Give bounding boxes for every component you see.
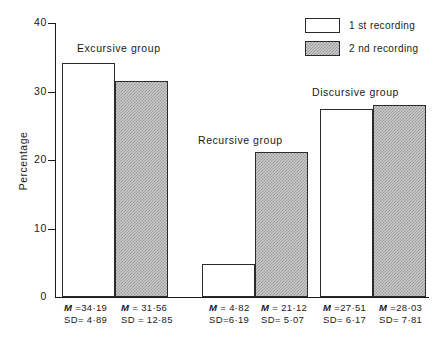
y-axis-title: Percentage bbox=[17, 116, 29, 206]
stat-recursive-2nd: M = 21·12 SD= 5·07 bbox=[261, 302, 307, 326]
legend-swatch-2nd-recording bbox=[305, 41, 340, 56]
stat-m-value: =28·03 bbox=[387, 302, 422, 313]
bar-recursive-1st bbox=[202, 264, 255, 297]
legend-label-2nd-recording: 2 nd recording bbox=[349, 43, 419, 54]
stat-sd-value: SD= 5·07 bbox=[261, 314, 307, 326]
stat-m-value: = 21·12 bbox=[269, 302, 307, 313]
group-title-discursive: Discursive group bbox=[312, 86, 399, 98]
stat-sd-value: SD=6·19 bbox=[209, 314, 250, 326]
legend-item-2nd-recording: 2 nd recording bbox=[305, 39, 419, 57]
stat-discursive-1st: M =27·51 SD= 6·17 bbox=[323, 302, 366, 326]
y-tick-30: 30 bbox=[0, 92, 55, 93]
bar-excursive-2nd bbox=[115, 81, 168, 297]
y-tick-label-0: 0 bbox=[17, 290, 47, 302]
legend-swatch-1st-recording bbox=[305, 18, 340, 33]
legend-item-1st-recording: 1 st recording bbox=[305, 16, 419, 34]
stat-excursive-2nd: M = 31·56 SD = 12·85 bbox=[121, 302, 173, 326]
y-tick-label-30: 30 bbox=[17, 85, 47, 97]
plot-area bbox=[55, 23, 429, 297]
bar-discursive-2nd bbox=[373, 105, 426, 297]
legend-label-1st-recording: 1 st recording bbox=[349, 20, 415, 31]
stat-m-value: =27·51 bbox=[331, 302, 366, 313]
stat-discursive-2nd: M =28·03 SD= 7·81 bbox=[379, 302, 422, 326]
group-title-recursive: Recursive group bbox=[198, 134, 283, 146]
y-tick-40: 40 bbox=[0, 23, 55, 24]
stat-recursive-1st: M = 4·82 SD=6·19 bbox=[209, 302, 250, 326]
group-title-excursive: Excursive group bbox=[77, 42, 161, 54]
stat-m-value: = 4·82 bbox=[217, 302, 249, 313]
bar-chart-figure: 40 30 20 10 0 Percentage Excursive group… bbox=[0, 0, 445, 342]
bar-discursive-1st bbox=[320, 109, 373, 297]
y-tick-label-40: 40 bbox=[17, 16, 47, 28]
y-tick-0: 0 bbox=[0, 297, 55, 298]
y-tick-10: 10 bbox=[0, 229, 55, 230]
legend: 1 st recording 2 nd recording bbox=[305, 16, 419, 62]
bar-recursive-2nd bbox=[255, 152, 308, 297]
stat-excursive-1st: M =34·19 SD= 4·89 bbox=[64, 302, 107, 326]
stat-sd-value: SD = 12·85 bbox=[121, 314, 173, 326]
stat-m-value: =34·19 bbox=[72, 302, 107, 313]
stat-sd-value: SD= 6·17 bbox=[323, 314, 366, 326]
bar-excursive-1st bbox=[62, 63, 115, 297]
x-axis-line bbox=[55, 297, 429, 298]
y-tick-label-10: 10 bbox=[17, 222, 47, 234]
stat-m-value: = 31·56 bbox=[129, 302, 167, 313]
stat-sd-value: SD= 4·89 bbox=[64, 314, 107, 326]
stat-sd-value: SD= 7·81 bbox=[379, 314, 422, 326]
